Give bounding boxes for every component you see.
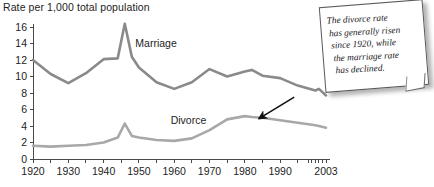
x-axis-tick-label: 1980 <box>233 165 257 177</box>
x-axis-tick-label: 1950 <box>127 165 151 177</box>
series-inline-labels: MarriageDivorce <box>135 37 206 126</box>
y-axis-tick-label: 6 <box>21 103 27 115</box>
y-axis-tick-labels: 0246810121416 <box>15 21 27 165</box>
y-axis-tick-label: 8 <box>21 87 27 99</box>
x-axis-tick-label: 1960 <box>163 165 187 177</box>
y-axis-tick-label: 10 <box>15 70 27 82</box>
x-axis-tick-label: 1970 <box>198 165 222 177</box>
x-axis-tick-labels: 192019301940195019601970198019902003 <box>21 165 338 177</box>
y-axis-tick-label: 16 <box>15 21 27 33</box>
chart-figure: Rate per 1,000 total population 02468101… <box>0 0 434 187</box>
y-axis-tick-label: 2 <box>21 136 27 148</box>
annotation-note: The divorce ratehas generally risensince… <box>319 0 429 93</box>
x-axis-tick-label: 1920 <box>21 165 45 177</box>
series-label-divorce: Divorce <box>171 114 207 126</box>
x-axis-tick-label: 1940 <box>92 165 116 177</box>
note-text: The divorce ratehas generally risensince… <box>326 10 421 78</box>
data-series-group <box>33 24 326 147</box>
x-axis-tick-label: 2003 <box>314 165 338 177</box>
x-axis-tick-label: 1930 <box>57 165 81 177</box>
x-axis-tick-marks <box>33 159 326 163</box>
y-axis-tick-label: 14 <box>15 37 27 49</box>
x-axis-tick-label: 1990 <box>268 165 292 177</box>
y-axis-tick-label: 12 <box>15 54 27 66</box>
y-axis-tick-label: 0 <box>21 153 27 165</box>
series-line-marriage <box>33 24 326 96</box>
series-label-marriage: Marriage <box>135 37 177 49</box>
y-axis-tick-label: 4 <box>21 120 27 132</box>
